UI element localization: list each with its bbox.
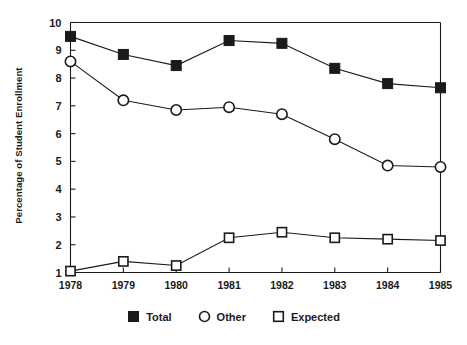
- data-point-marker: [224, 36, 234, 46]
- x-axis-ticks: 19781979198019811982198319841985: [59, 268, 453, 291]
- y-tick-label: 3: [55, 211, 61, 223]
- data-point-marker: [383, 79, 393, 89]
- y-tick-label: 10: [49, 17, 61, 29]
- x-tick-label: 1985: [429, 279, 453, 291]
- x-tick-label: 1981: [217, 279, 241, 291]
- series-expected: [66, 228, 445, 276]
- legend-item-total: Total: [127, 310, 171, 323]
- data-point-marker: [224, 233, 233, 242]
- data-point-marker: [118, 95, 128, 105]
- data-point-marker: [436, 83, 446, 93]
- legend-label: Expected: [291, 311, 340, 323]
- data-point-marker: [382, 160, 392, 170]
- y-tick-label: 9: [55, 44, 61, 56]
- data-point-marker: [277, 228, 286, 237]
- data-series-layer: [65, 31, 445, 275]
- data-point-marker: [330, 233, 339, 242]
- legend-marker-open-square-icon: [272, 310, 285, 323]
- series-total: [66, 31, 446, 92]
- y-tick-label: 6: [55, 128, 61, 140]
- x-tick-label: 1978: [59, 279, 83, 291]
- data-point-marker: [66, 267, 75, 276]
- data-point-marker: [436, 236, 445, 245]
- y-tick-label: 1: [55, 267, 61, 279]
- plot-area: 12345678910 1978197919801981198219831984…: [0, 0, 467, 345]
- x-tick-label: 1980: [165, 279, 189, 291]
- data-point-marker: [65, 56, 75, 66]
- legend-label: Total: [146, 311, 171, 323]
- data-point-marker: [224, 102, 234, 112]
- legend-item-expected: Expected: [272, 310, 340, 323]
- data-point-marker: [171, 61, 181, 71]
- data-point-marker: [171, 105, 181, 115]
- x-tick-label: 1979: [112, 279, 136, 291]
- data-point-marker: [383, 235, 392, 244]
- y-tick-label: 8: [55, 72, 61, 84]
- series-other: [65, 56, 445, 172]
- chart-legend: TotalOtherExpected: [0, 310, 467, 323]
- data-point-marker: [277, 38, 287, 48]
- y-tick-label: 7: [55, 100, 61, 112]
- x-tick-label: 1982: [270, 279, 294, 291]
- y-tick-label: 4: [55, 183, 62, 195]
- x-tick-label: 1984: [376, 279, 400, 291]
- legend-item-other: Other: [198, 310, 246, 323]
- data-point-marker: [172, 261, 181, 270]
- line-chart: Percentage of Student Enrollment 1234567…: [0, 0, 467, 345]
- legend-marker-open-circle-icon: [198, 310, 211, 323]
- data-point-marker: [330, 63, 340, 73]
- data-point-marker: [277, 109, 287, 119]
- legend-label: Other: [217, 311, 246, 323]
- data-point-marker: [66, 31, 76, 41]
- legend-marker-filled-square-icon: [127, 310, 140, 323]
- data-point-marker: [435, 162, 445, 172]
- data-point-marker: [118, 49, 128, 59]
- data-point-marker: [330, 134, 340, 144]
- x-tick-label: 1983: [323, 279, 347, 291]
- y-tick-label: 5: [55, 155, 61, 167]
- data-point-marker: [119, 257, 128, 266]
- y-tick-label: 2: [55, 239, 61, 251]
